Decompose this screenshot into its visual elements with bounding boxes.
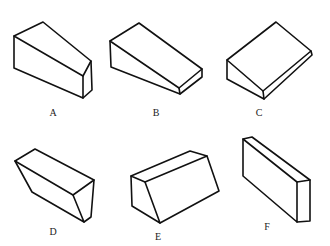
shape-edge	[131, 176, 160, 223]
figure-canvas	[0, 0, 330, 246]
shape-a	[14, 22, 92, 98]
shape-label-b: B	[153, 107, 160, 118]
shape-edge	[160, 156, 219, 223]
shape-edge	[131, 151, 207, 182]
shape-edge	[243, 137, 310, 182]
shape-edge	[110, 23, 202, 88]
shape-edge	[297, 180, 310, 222]
shape-edge	[243, 139, 297, 222]
shape-d	[15, 149, 94, 222]
shape-label-c: C	[256, 107, 263, 118]
drawings-svg	[0, 0, 330, 246]
shape-f	[243, 137, 310, 222]
shape-label-f: F	[264, 221, 270, 232]
shape-c	[227, 22, 312, 99]
shape-edge	[227, 60, 264, 99]
shape-edge	[264, 51, 312, 99]
shape-edge	[15, 149, 94, 195]
shape-label-e: E	[155, 231, 161, 242]
shape-label-a: A	[49, 107, 56, 118]
shape-label-d: D	[49, 226, 56, 237]
shape-e	[131, 151, 219, 223]
shape-b	[110, 23, 202, 94]
shape-edge	[227, 22, 311, 91]
shape-edge	[14, 22, 91, 76]
